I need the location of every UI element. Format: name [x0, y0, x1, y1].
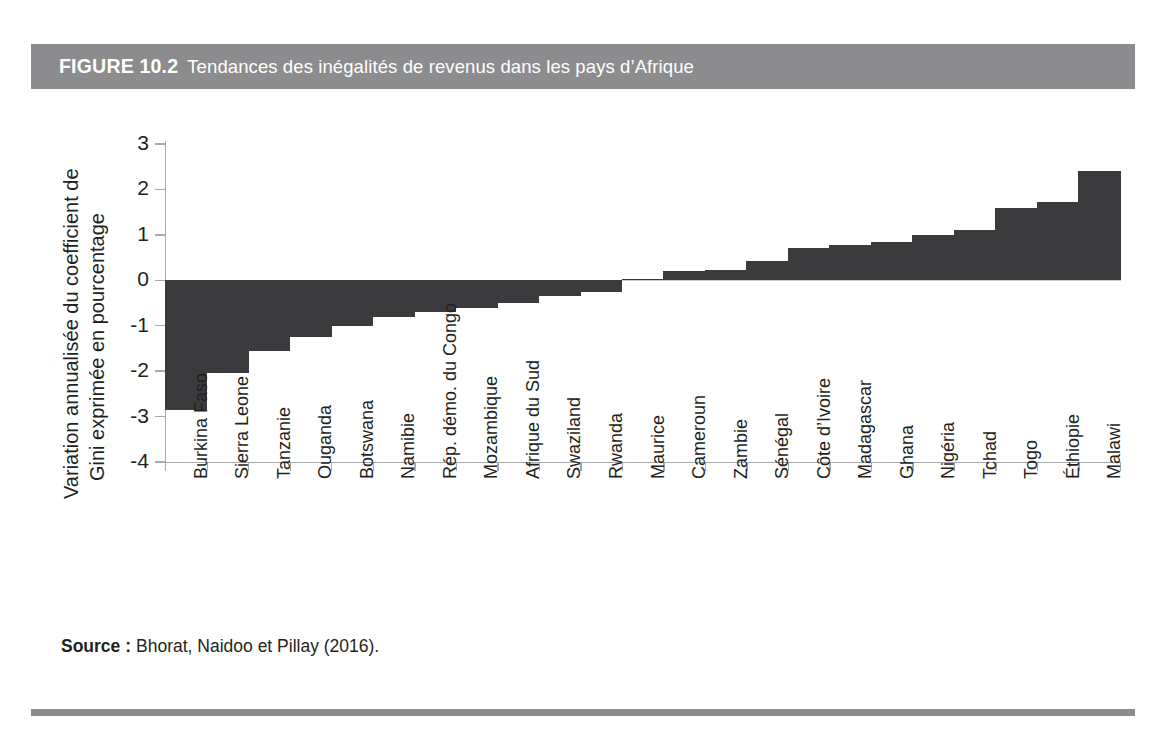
x-axis-label: Maurice [649, 415, 667, 479]
figure-title-band: FIGURE 10.2Tendances des inégalités de r… [31, 44, 1135, 89]
y-axis-tick-label: 2 [117, 176, 149, 200]
x-axis-label: Namibie [399, 413, 417, 479]
figure-title-inner: FIGURE 10.2Tendances des inégalités de r… [31, 55, 694, 78]
bar [995, 208, 1037, 281]
y-axis-tick [155, 416, 165, 417]
bar [871, 242, 913, 281]
bar [788, 248, 830, 281]
x-axis-tick [165, 462, 166, 471]
y-axis-tick [155, 325, 165, 326]
x-axis-label: Mozambique [482, 376, 500, 479]
y-axis-tick-label: 0 [117, 267, 149, 291]
x-axis-label: Swaziland [565, 397, 583, 479]
bar [705, 270, 747, 280]
source-note: Source :Bhorat, Naidoo et Pillay (2016). [61, 636, 379, 657]
y-axis-tick-label: 1 [117, 222, 149, 246]
x-axis-label: Rép. démo. du Congo [441, 303, 459, 479]
x-axis-label: Cameroun [690, 395, 708, 479]
x-axis-label: Sierra Leone [233, 376, 251, 479]
bar [622, 279, 664, 281]
y-axis-tick-label: -3 [117, 404, 149, 428]
y-axis-tick [155, 280, 165, 281]
x-axis-line [165, 462, 1121, 463]
x-axis-label: Éthiopie [1064, 414, 1082, 479]
bar [331, 280, 373, 325]
x-axis-label: Botswana [358, 400, 376, 479]
y-axis-tick [155, 143, 165, 144]
bar [663, 271, 705, 280]
bottom-rule [31, 709, 1135, 716]
bar [456, 280, 498, 307]
x-axis-label: Ouganda [316, 405, 334, 479]
bar [580, 280, 622, 291]
y-axis-tick [155, 189, 165, 190]
bar [1037, 202, 1079, 280]
y-axis-tick-label: -4 [117, 449, 149, 473]
y-axis-title-line-1: Variation annualisée du coefficient de [61, 168, 81, 499]
bar [1078, 171, 1120, 280]
source-text: Bhorat, Naidoo et Pillay (2016). [136, 636, 379, 656]
y-axis-tick [155, 234, 165, 235]
bar [539, 280, 581, 296]
y-axis-title-line-2: Gini exprimée en pourcentage [87, 213, 107, 481]
figure-container: FIGURE 10.2Tendances des inégalités de r… [0, 0, 1166, 751]
x-axis-label: Sénégal [773, 413, 791, 479]
bar [248, 280, 290, 350]
bar [207, 280, 249, 373]
bar [746, 261, 788, 280]
figure-number-label: FIGURE 10.2 [59, 55, 178, 77]
bar [829, 245, 871, 280]
y-axis-tick-label: -1 [117, 313, 149, 337]
x-axis-label: Tchad [981, 431, 999, 479]
chart-panel: Variation annualisée du coefficient de G… [31, 89, 1135, 689]
bar [373, 280, 415, 316]
y-axis-tick-label: 3 [117, 131, 149, 155]
y-axis-tick [155, 461, 165, 462]
bar [497, 280, 539, 303]
y-axis-tick [155, 370, 165, 371]
x-axis-label: Rwanda [607, 413, 625, 479]
bar [912, 235, 954, 280]
x-axis-label: Zambie [732, 419, 750, 479]
x-axis-label: Ghana [898, 425, 916, 479]
page-title: Tendances des inégalités de revenus dans… [187, 56, 694, 77]
x-axis-label: Côte d’Ivoire [815, 378, 833, 479]
x-axis-label: Tanzanie [275, 407, 293, 479]
x-axis-label: Burkina Faso [192, 373, 210, 479]
y-axis-tick-label: -2 [117, 358, 149, 382]
source-label: Source : [61, 636, 131, 656]
bar [954, 230, 996, 280]
x-axis-label: Madagascar [856, 380, 874, 479]
x-axis-label: Malawi [1105, 423, 1123, 479]
bar [290, 280, 332, 337]
x-axis-label: Togo [1022, 440, 1040, 479]
x-axis-label: Nigéria [939, 422, 957, 479]
x-axis-label: Afrique du Sud [524, 360, 542, 479]
